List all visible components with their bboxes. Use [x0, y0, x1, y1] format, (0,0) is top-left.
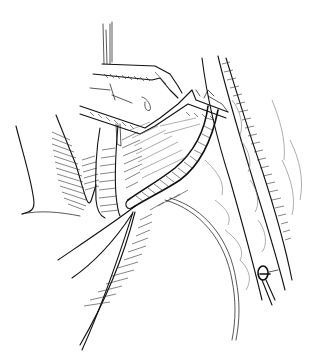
surgical-illustration: [0, 0, 324, 363]
tissue-layers-right: [202, 56, 302, 300]
forceps-upper: [90, 22, 182, 100]
tubular-structure: [126, 90, 228, 208]
drawing: [0, 0, 324, 363]
catheter-needle: [58, 190, 188, 350]
forceps-lower: [80, 90, 228, 134]
organ-outline: [165, 198, 239, 340]
clip-marker: [258, 266, 278, 305]
vessel-pillar: [96, 124, 121, 218]
tissue-fold-left: [16, 115, 99, 216]
